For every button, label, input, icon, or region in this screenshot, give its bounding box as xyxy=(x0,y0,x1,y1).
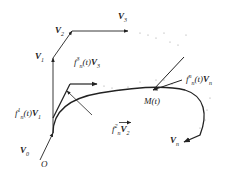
f2-overarrow-icon xyxy=(118,120,132,125)
label-fn-vn: fnn(t)Vn xyxy=(186,73,212,86)
label-v0: V0 xyxy=(20,146,29,157)
curve-diagram xyxy=(0,0,233,174)
label-origin: O xyxy=(41,160,48,169)
vector-v0 xyxy=(40,133,53,160)
dotted-trail-upper xyxy=(139,32,186,45)
label-f3-v3: f3n(t)V3 xyxy=(74,56,100,69)
label-f1-v1: f1n(t)V1 xyxy=(15,107,41,120)
label-v2: V2 xyxy=(55,26,64,37)
vector-f1-v1 xyxy=(53,84,70,118)
label-vn: Vn xyxy=(170,136,179,147)
dotted-trail-middle xyxy=(103,79,172,90)
label-mt: M(t) xyxy=(144,97,160,106)
label-v1: V1 xyxy=(35,52,44,63)
label-v3: V3 xyxy=(118,12,127,23)
